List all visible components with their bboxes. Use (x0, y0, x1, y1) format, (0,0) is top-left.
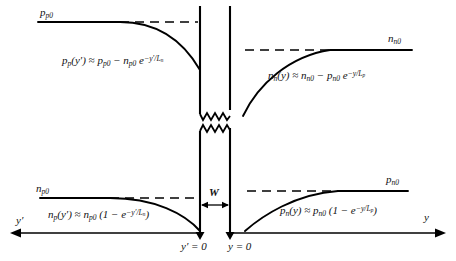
depletion-width-label: W (209, 186, 219, 198)
origin-tick-y (226, 232, 235, 240)
axis-y-prime-arrowhead (10, 229, 21, 238)
axis-label-y: y (424, 211, 429, 223)
level-label-pn0: pn0 (386, 173, 399, 187)
origin-label-y-prime: y′ = 0 (181, 240, 207, 252)
width-arrow-head-left (201, 202, 208, 208)
origin-label-y: y = 0 (228, 240, 251, 252)
equation-upper-left: pp(y′) ≈ pp0 − np0 e−y′/Ln (62, 54, 163, 68)
axis-label-y-prime: y′ (16, 214, 23, 226)
origin-tick-y-prime (196, 232, 205, 240)
level-label-np0: np0 (36, 182, 49, 196)
equation-upper-right: nn(y) ≈ nn0 − pn0 e−y/Lp (268, 69, 365, 83)
level-label-nn0: nn0 (388, 32, 401, 46)
axis-y-arrowhead (435, 229, 446, 238)
equation-lower-right: pn(y) ≈ pn0 (1 − e−y/Lp) (280, 204, 377, 218)
break-mark-upper (200, 113, 230, 120)
level-label-pp0: pp0 (40, 6, 53, 20)
width-arrow-head-right (222, 202, 229, 208)
break-mark-lower (200, 125, 230, 132)
equation-lower-left: np(y′) ≈ np0 (1 − e−y′/Ln) (48, 208, 149, 222)
